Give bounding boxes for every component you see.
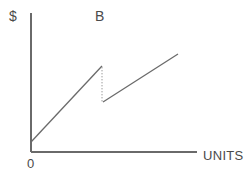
series-segment-1 bbox=[31, 66, 102, 142]
origin-label: 0 bbox=[27, 157, 34, 170]
breakpoint-annotation-label: B bbox=[95, 9, 104, 23]
x-axis-label: UNITS bbox=[203, 149, 244, 162]
chart-figure: $ B 0 UNITS bbox=[0, 0, 245, 179]
series-segment-2 bbox=[103, 54, 178, 102]
y-axis-label: $ bbox=[9, 9, 17, 23]
